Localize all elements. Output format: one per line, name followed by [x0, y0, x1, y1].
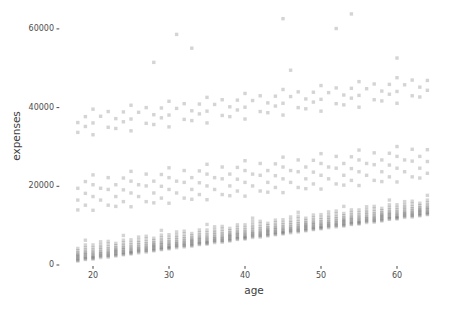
data-point — [319, 152, 322, 155]
data-point — [411, 94, 414, 97]
data-point — [281, 17, 284, 20]
data-point — [198, 169, 201, 172]
data-point — [190, 46, 193, 49]
data-point — [198, 193, 201, 196]
data-point — [274, 104, 277, 107]
data-point — [167, 113, 170, 116]
data-point — [350, 179, 353, 182]
data-point — [319, 98, 322, 101]
data-point — [297, 158, 300, 161]
data-point — [122, 176, 125, 179]
data-point — [91, 183, 94, 186]
data-point — [76, 131, 79, 134]
data-point — [129, 129, 132, 132]
data-point — [160, 173, 163, 176]
y-axis-tick-label: 0 — [14, 261, 54, 269]
data-point — [357, 80, 360, 83]
data-point — [152, 123, 155, 126]
data-point — [213, 188, 216, 191]
data-point — [388, 203, 391, 206]
data-point — [327, 165, 330, 168]
data-point — [380, 89, 383, 92]
data-point — [259, 94, 262, 97]
data-point — [122, 200, 125, 203]
data-point — [243, 223, 246, 226]
y-axis-title: expenses — [10, 111, 22, 161]
data-point — [137, 195, 140, 198]
data-point — [221, 177, 224, 180]
data-point — [236, 223, 239, 226]
data-point — [411, 159, 414, 162]
scatter-plot-figure: expenses age 20304050600200004000060000 — [0, 0, 451, 313]
data-point — [297, 211, 300, 214]
data-point — [259, 220, 262, 223]
data-point — [373, 163, 376, 166]
data-point — [160, 106, 163, 109]
data-point — [281, 88, 284, 91]
data-point — [76, 187, 79, 190]
data-point — [373, 179, 376, 182]
data-point — [312, 213, 315, 216]
data-point — [411, 200, 414, 203]
data-point — [107, 110, 110, 113]
data-point — [190, 176, 193, 179]
data-point — [160, 229, 163, 232]
data-point — [228, 227, 231, 230]
data-point — [289, 69, 292, 72]
data-point — [76, 208, 79, 211]
data-point — [380, 158, 383, 161]
data-point — [152, 237, 155, 240]
data-point — [297, 106, 300, 109]
data-point — [91, 209, 94, 212]
data-point — [350, 167, 353, 170]
data-point — [357, 148, 360, 151]
data-point — [319, 174, 322, 177]
data-point — [373, 151, 376, 154]
data-point — [380, 180, 383, 183]
data-point — [281, 102, 284, 105]
data-point — [426, 198, 429, 201]
data-point — [319, 162, 322, 165]
data-point — [152, 61, 155, 64]
data-point — [183, 169, 186, 172]
data-point — [297, 90, 300, 93]
data-point — [190, 198, 193, 201]
data-point — [373, 205, 376, 208]
data-point — [281, 155, 284, 158]
data-point — [312, 170, 315, 173]
data-point — [91, 243, 94, 246]
data-point — [167, 176, 170, 179]
data-point — [312, 159, 315, 162]
data-point — [175, 33, 178, 36]
data-point — [418, 167, 421, 170]
data-point — [281, 177, 284, 180]
data-point — [243, 169, 246, 172]
data-point — [350, 12, 353, 15]
x-axis-tick-label: 20 — [88, 272, 98, 280]
data-point — [190, 188, 193, 191]
data-point — [190, 232, 193, 235]
data-point — [175, 191, 178, 194]
y-axis-tick-label: 20000 — [14, 182, 54, 190]
data-point — [365, 162, 368, 165]
data-point — [129, 191, 132, 194]
data-point — [236, 108, 239, 111]
data-point — [152, 191, 155, 194]
data-point — [289, 218, 292, 221]
data-point — [84, 192, 87, 195]
data-point — [350, 96, 353, 99]
data-point — [335, 155, 338, 158]
data-point — [76, 198, 79, 201]
data-point — [335, 182, 338, 185]
data-point — [243, 106, 246, 109]
data-point — [274, 186, 277, 189]
data-point — [327, 177, 330, 180]
data-point — [342, 93, 345, 96]
data-point — [403, 83, 406, 86]
y-axis-tick-label: 60000 — [14, 25, 54, 33]
data-point — [395, 56, 398, 59]
data-point — [145, 172, 148, 175]
data-point — [205, 228, 208, 231]
data-point — [251, 99, 254, 102]
data-point — [175, 230, 178, 233]
